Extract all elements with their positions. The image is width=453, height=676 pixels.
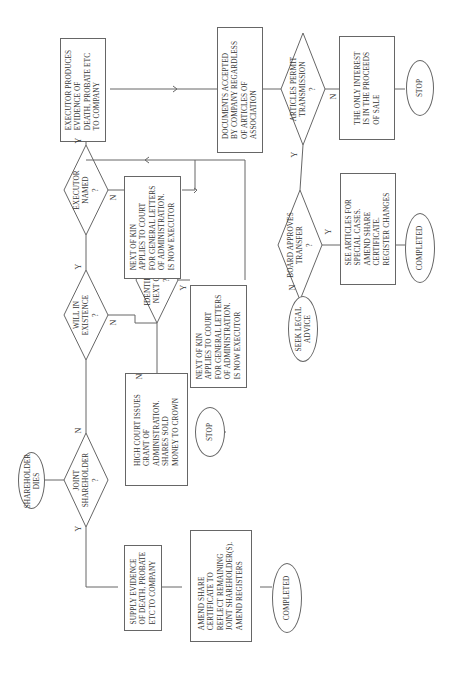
process-kin-1-label: NEXT OF KIN APPLIES TO COURT FOR GENERAL… [129,185,176,270]
process-executor-produces: EXECUTOR PRODUCES EVIDENCE OF DEATH, PRO… [60,38,106,142]
process-see-articles: SEE ARTICLES FOR SPECIAL CASES. AMEND SH… [340,173,396,285]
label-will-no: N [109,320,118,326]
process-high-court-label: HIGH COURT ISSUES GRANT OF ADMINISTRATIO… [133,393,180,465]
process-kin-2-label: NEXT OF KIN APPLIES TO COURT FOR GENERAL… [195,294,242,379]
terminal-completed-2-label: COMPLETED [415,226,424,271]
label-board-no: N [288,285,297,291]
process-executor-produces-label: EXECUTOR PRODUCES EVIDENCE OF DEATH, PRO… [64,50,102,130]
decision-joint-label: JOINT SHAREHOLDER ? [72,453,100,508]
process-kin-applies-2: NEXT OF KIN APPLIES TO COURT FOR GENERAL… [190,285,247,388]
label-articles-no: N [329,94,338,100]
decision-board-label: BOARD APPROVES TRANSFER ? [286,212,314,278]
process-documents-label: DOCUMENTS ACCEPTED BY COMPANY REGARDLESS… [221,41,259,139]
label-will-yes: Y [74,264,83,270]
process-amend-certificate: AMEND SHARE CERTIFICATE TO REFLECT REMAI… [190,530,252,642]
start-label: SHAREHOLDER DIES [22,453,41,508]
label-kin-no: N [135,374,144,380]
process-amend-label: AMEND SHARE CERTIFICATE TO REFLECT REMAI… [197,542,244,630]
start-shareholder-dies: SHAREHOLDER DIES [18,452,45,509]
terminal-completed-2: COMPLETED [405,213,435,283]
process-kin-applies-1: NEXT OF KIN APPLIES TO COURT FOR GENERAL… [124,176,181,279]
terminal-stop-1: STOP [195,407,225,457]
terminal-stop-2: STOP [406,60,434,116]
label-joint-yes: Y [74,526,83,532]
label-kin-yes: Y [179,285,188,291]
decision-articles-permit: ARTICLES PERMIT TRANSMISSION ? [281,33,325,145]
process-supply-label: SUPPLY EVIDENCE OF DEATH, PROBATE ETC TO… [129,552,157,625]
terminal-stop-1-label: STOP [205,423,214,441]
label-joint-no: N [74,428,83,434]
decision-joint-shareholder: JOINT SHAREHOLDER ? [64,433,108,527]
label-articles-yes: Y [290,152,299,158]
decision-board-approves: BOARD APPROVES TRANSFER ? [278,190,322,300]
process-see-articles-label: SEE ARTICLES FOR SPECIAL CASES. AMEND SH… [344,193,391,266]
process-only-interest-label: THE ONLY INTEREST IS IN THE PROCEEDS OF … [353,51,381,124]
process-documents-accepted: DOCUMENTS ACCEPTED BY COMPANY REGARDLESS… [217,27,263,153]
decision-articles-label: ARTICLES PERMIT TRANSMISSION ? [289,57,317,122]
label-board-yes: Y [324,229,333,235]
process-high-court: HIGH COURT ISSUES GRANT OF ADMINISTRATIO… [125,373,188,486]
terminal-seek-legal: SEEK LEGAL ADVICE [288,296,318,362]
terminal-seek-legal-label: SEEK LEGAL ADVICE [294,307,313,352]
terminal-completed-1: COMPLETED [272,563,302,633]
label-executor-no: N [109,195,118,201]
decision-executor-label: EXECUTOR NAMED ? [72,170,100,210]
decision-executor-named: EXECUTOR NAMED ? [64,145,108,235]
process-only-interest: THE ONLY INTEREST IS IN THE PROCEEDS OF … [339,36,395,140]
terminal-completed-1-label: COMPLETED [282,576,291,621]
process-supply-evidence: SUPPLY EVIDENCE OF DEATH, PROBATE ETC TO… [124,545,162,631]
label-executor-yes: Y [74,138,83,144]
decision-will-existence: WILL IN EXISTENCE ? [64,270,108,360]
decision-will-label: WILL IN EXISTENCE ? [72,295,100,336]
terminal-stop-2-label: STOP [415,79,424,97]
